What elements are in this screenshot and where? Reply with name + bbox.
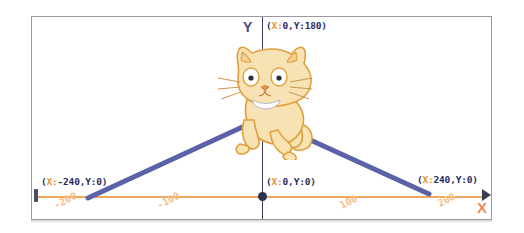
y-key: Y: bbox=[85, 176, 96, 187]
coordinate-label-left: (X:-240,Y:0) bbox=[41, 176, 107, 187]
origin-point-marker bbox=[258, 192, 267, 201]
coordinate-label-origin: (X:0,Y:0) bbox=[266, 176, 316, 187]
coordinate-label-right: (X:240,Y:0) bbox=[417, 174, 478, 185]
x-key: X: bbox=[47, 176, 58, 187]
paren-close: ) bbox=[310, 176, 316, 187]
coordinate-plane-diagram: Y X -200 -100 100 200 bbox=[0, 0, 524, 233]
paren-close: ) bbox=[472, 174, 478, 185]
paren-close: ) bbox=[321, 20, 327, 31]
x-key: X: bbox=[423, 174, 434, 185]
y-axis-label: Y bbox=[243, 19, 252, 35]
paren-close: ) bbox=[102, 176, 108, 187]
x-axis-left-cap-icon bbox=[34, 189, 38, 202]
coordinate-label-top: (X:0,Y:180) bbox=[266, 20, 327, 31]
x-axis-label: X bbox=[477, 199, 487, 216]
x-key: X: bbox=[272, 176, 283, 187]
y-key: Y: bbox=[294, 20, 305, 31]
x-value: -240 bbox=[58, 176, 80, 187]
y-key: Y: bbox=[294, 176, 305, 187]
x-value: 240 bbox=[434, 174, 451, 185]
scratch-cat-sprite bbox=[214, 44, 318, 160]
x-key: X: bbox=[272, 20, 283, 31]
y-value: 180 bbox=[305, 20, 322, 31]
y-key: Y: bbox=[456, 174, 467, 185]
